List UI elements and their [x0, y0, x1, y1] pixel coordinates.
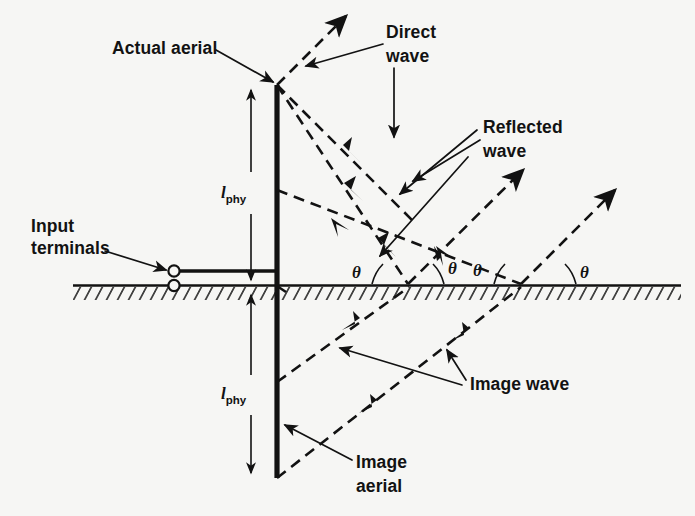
upper-length-dimension: lphy	[221, 90, 251, 280]
lower-length-dimension: lphy	[221, 295, 251, 473]
reflected-ray-up-1	[408, 170, 523, 284]
image-wave-label: Image wave	[470, 374, 569, 394]
angle-marks: θ θ θ θ	[352, 259, 589, 284]
image-aerial-label-line1: Image	[356, 452, 407, 472]
image-aerial-label-line2: aerial	[356, 476, 402, 496]
input-terminals-label-line1: Input	[31, 216, 74, 236]
input-terminal-lower	[168, 280, 179, 291]
direct-wave-leader-upper	[306, 44, 383, 66]
theta-arc-1	[372, 264, 383, 284]
upper-length-subscript: phy	[226, 193, 247, 205]
actual-aerial-label: Actual aerial	[112, 38, 217, 58]
image-wave-leader-1	[340, 348, 462, 385]
theta-label-4: θ	[580, 263, 589, 282]
direct-wave-ray-lower-arrowhead	[343, 137, 360, 162]
reflected-wave-leader-2	[413, 140, 480, 181]
direct-wave-ray-upper	[277, 16, 346, 85]
figure-container: lphy lphy	[0, 0, 695, 516]
reflected-wave-leader-1	[400, 130, 477, 194]
direct-wave-label-line2: wave	[385, 46, 429, 66]
actual-aerial-leader	[216, 50, 273, 82]
text-labels: Actual aerial Input terminals Direct wav…	[31, 22, 569, 496]
lower-length-subscript: phy	[226, 394, 247, 406]
input-terminals-label-line2: terminals	[31, 238, 110, 258]
incident-ray-2-arrowhead	[331, 218, 349, 237]
incident-ray-to-reflection-1	[277, 85, 408, 284]
reflected-wave-label-line2: wave	[482, 141, 526, 161]
theta-label-1: θ	[352, 263, 361, 282]
theta-arc-2	[433, 264, 444, 284]
incident-ray-1-arrowhead	[344, 176, 363, 201]
image-ray-1	[277, 287, 409, 382]
reflected-wave-label-line1: Reflected	[483, 117, 563, 137]
input-terminals-leader	[105, 251, 166, 270]
theta-label-3: θ	[473, 261, 482, 280]
theta-arc-4	[565, 264, 576, 284]
image-aerial-leader	[285, 425, 352, 460]
ground-plane	[73, 286, 681, 301]
input-terminal-upper	[168, 265, 179, 276]
reflected-wave-leader-3	[380, 157, 468, 256]
wave-rays-above-ground	[277, 16, 615, 284]
theta-label-2: θ	[448, 259, 457, 278]
direct-wave-label-line1: Direct	[386, 22, 436, 42]
lower-length-label: lphy	[221, 384, 247, 406]
ground-hatching	[73, 287, 681, 300]
image-wave-leader-2	[447, 350, 466, 380]
reflected-ray-up-2	[521, 190, 615, 284]
upper-length-label: lphy	[221, 183, 247, 205]
aerial-image-theory-diagram: lphy lphy	[0, 0, 695, 516]
